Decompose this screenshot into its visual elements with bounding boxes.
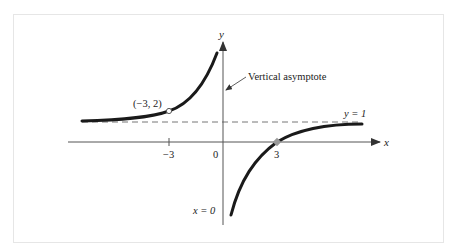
vertical-asymptote-equation: x = 0 [192,205,216,216]
x-tick-label-0: 0 [213,149,218,160]
x-tick-label-3: 3 [274,149,279,160]
point-open-circle [166,108,171,113]
horizontal-asymptote-label: y = 1 [343,108,366,119]
curve-right-branch [231,124,362,215]
point-label: (−3, 2) [133,98,162,110]
x-tick-label-neg3: −3 [163,149,174,160]
graph-canvas: y x −3 0 3 (−3, 2) Vertical asymptote y … [0,0,454,252]
vertical-asymptote-callout: Vertical asymptote [248,71,327,82]
y-axis-label: y [218,28,224,40]
x-axis-label: x [383,136,389,148]
curve-left-branch [82,53,217,121]
callout-leader-line [226,77,246,90]
